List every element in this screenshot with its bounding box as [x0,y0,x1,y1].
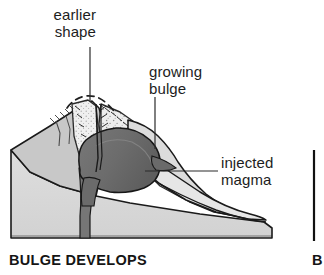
volcano-cross-section-illustration [0,0,324,275]
label-earlier-shape: earlier shape [14,6,96,40]
label-injected-magma: injected magma [221,154,321,188]
next-panel-caption-fragment: B [312,252,324,268]
figure-bulge-develops: earlier shape growing bulge injected mag… [0,0,324,275]
stage-caption: BULGE DEVELOPS [9,252,147,268]
label-growing-bulge: growing bulge [149,63,249,97]
